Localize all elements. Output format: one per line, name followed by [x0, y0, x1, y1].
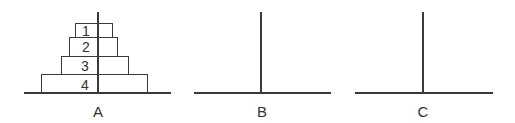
disk-2-label: 2	[76, 40, 96, 54]
peg-c-label: C	[413, 104, 433, 119]
peg-a-label: A	[88, 104, 108, 119]
peg-a-rod	[97, 12, 99, 93]
disk-1-label: 1	[76, 24, 96, 38]
disk-3-label: 3	[75, 59, 95, 73]
disk-4-label: 4	[75, 78, 95, 92]
peg-b-base	[194, 92, 331, 94]
peg-c-base	[355, 92, 493, 94]
disk-3	[61, 56, 129, 75]
peg-c-rod	[422, 12, 424, 93]
peg-b-rod	[260, 12, 262, 93]
peg-b-label: B	[252, 104, 272, 119]
